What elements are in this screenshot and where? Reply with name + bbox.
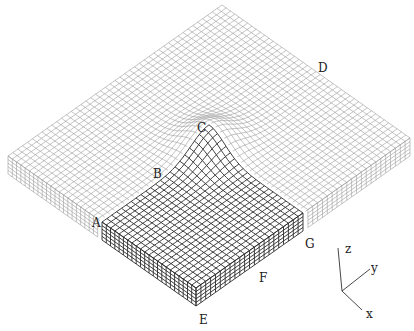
mesh-figure <box>0 0 414 331</box>
point-label-e: E <box>199 314 208 326</box>
point-label-b: B <box>153 168 162 180</box>
axis-label-y: y <box>371 262 378 274</box>
point-label-g: G <box>305 238 315 250</box>
point-label-f: F <box>259 272 267 284</box>
coordinate-axes <box>338 248 370 310</box>
point-label-c: C <box>197 122 206 134</box>
point-label-d: D <box>318 62 328 74</box>
slab-mesh-light <box>8 5 410 237</box>
slab-mesh-highlighted-block <box>102 125 303 306</box>
point-label-a: A <box>92 217 101 229</box>
axis-label-x: x <box>366 308 373 320</box>
axis-label-z: z <box>345 243 351 255</box>
